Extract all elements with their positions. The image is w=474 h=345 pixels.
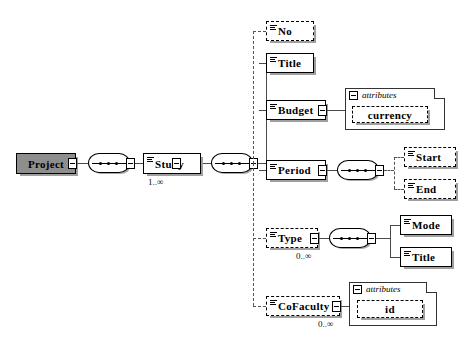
branch-spine-type [390,225,391,257]
simple-type-icon [404,251,411,257]
simple-type-icon [270,25,277,31]
sequence-type-collapse-icon[interactable] [367,233,376,244]
element-type-cardinality: 0..∞ [296,251,311,261]
element-cofaculty-collapse-icon[interactable] [332,301,341,312]
element-study-collapse-icon[interactable] [172,158,181,169]
element-start[interactable]: Start [404,147,456,167]
connector-seq2-branch [258,163,266,164]
simple-type-icon [147,157,154,163]
element-type-collapse-icon[interactable] [310,233,319,244]
simple-type-icon [270,57,277,63]
sequence-period-collapse-icon[interactable] [375,165,384,176]
element-project[interactable]: Project [16,153,76,174]
connector-spine-mode [390,225,400,226]
element-no[interactable]: No [266,21,314,41]
branch-spine-dashed-bottom [253,163,254,306]
minus-box-icon[interactable] [349,91,358,100]
element-type-title[interactable]: Title [400,247,452,267]
connector-spine-end [394,189,404,190]
connector-branch-type [253,238,266,239]
branch-spine-dashed-top [253,31,254,164]
element-end[interactable]: End [404,179,456,199]
element-cofaculty-cardinality: 0..∞ [318,319,333,329]
simple-type-icon [270,232,277,238]
connector-branch-cofaculty [253,306,266,307]
connector-seq-study [135,163,143,164]
element-title[interactable]: Title [266,53,314,73]
simple-type-icon [404,219,411,225]
element-period[interactable]: Period [266,160,326,180]
element-project-collapse-icon[interactable] [68,158,77,169]
attributes-header-budget[interactable]: attributes [349,90,397,100]
attribute-id[interactable]: id [357,300,423,318]
element-cofaculty[interactable]: CoFaculty [266,296,340,316]
element-period-collapse-icon[interactable] [318,165,327,176]
connector-study-seq2 [203,163,211,164]
attribute-currency-label: currency [353,109,427,121]
simple-type-icon [270,300,277,306]
element-budget-collapse-icon[interactable] [318,105,327,116]
connector-period-seq [327,170,337,171]
connector-spine-type-title [390,257,400,258]
connector-cofaculty-attributes [341,306,349,307]
connector-spine-start [394,157,404,158]
element-study-cardinality: 1..∞ [148,177,163,187]
xml-schema-diagram: Project Study 1..∞ No [0,0,474,345]
simple-type-icon [270,164,277,170]
element-budget[interactable]: Budget [266,100,326,120]
connector-type-seq [319,238,329,239]
minus-box-icon[interactable] [353,285,362,294]
attributes-label: attributes [366,284,401,294]
simple-type-icon [408,183,415,189]
element-mode[interactable]: Mode [400,215,452,235]
connector-branch-no [253,31,266,32]
element-project-label: Project [17,158,75,170]
attributes-corner-notch [426,282,437,293]
attributes-label: attributes [362,90,397,100]
connector-project-seq [77,163,88,164]
simple-type-icon [270,104,277,110]
connector-typeseq-spine [376,238,390,239]
branch-spine-period [394,157,395,189]
simple-type-icon [408,151,415,157]
attribute-id-label: id [358,303,422,315]
connector-budget-attributes [327,110,345,111]
sequence-root-collapse-icon[interactable] [126,158,135,169]
attributes-corner-notch [434,88,445,99]
connector-periodseq-spine [384,170,394,171]
attribute-currency[interactable]: currency [352,106,428,123]
attributes-header-cofaculty[interactable]: attributes [353,284,401,294]
